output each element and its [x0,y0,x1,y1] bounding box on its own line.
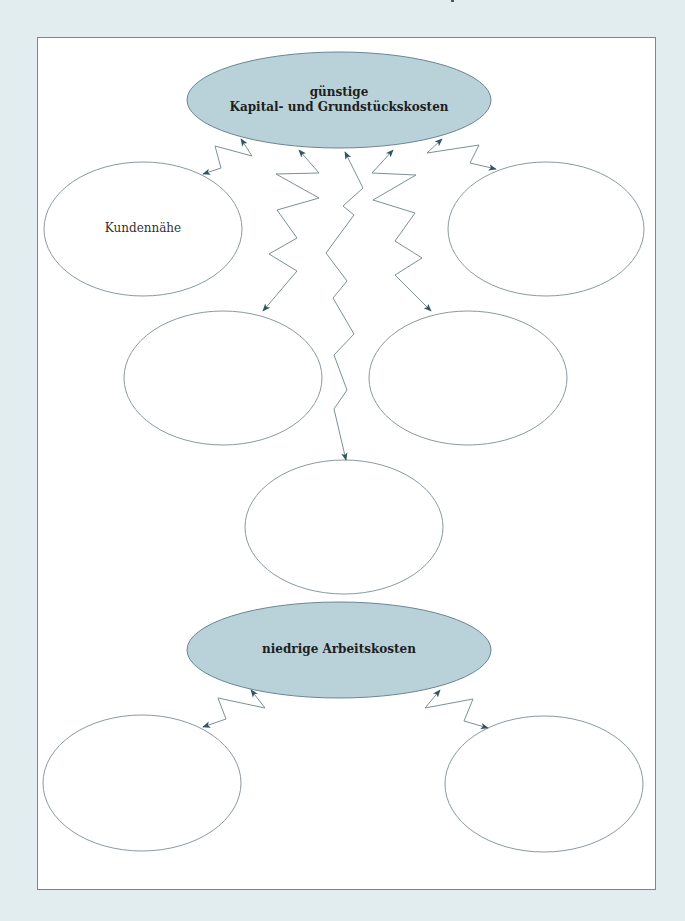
node-bottom-right-empty [445,716,643,852]
zigzag-arrow-to-customer-proximity [203,139,252,174]
mind-map-diagram [0,0,685,921]
node-customer-proximity-label: Kundennähe [44,221,242,236]
zigzag-arrow-to-top-right [427,139,496,169]
label-line-favorable: günstige [187,85,491,100]
primary-node-labor-costs-label: niedrige Arbeitskosten [187,642,491,657]
zigzag-arrow-to-middle-left [263,150,319,311]
node-bottom-left-empty [43,715,241,851]
node-middle-right-empty [369,311,567,445]
node-top-right-empty [448,162,644,296]
label-line-capital-land-costs: Kapital- und Grundstückskosten [187,100,491,115]
zigzag-arrow-to-center-bottom [326,152,363,460]
zigzag-arrow-to-bottom-left [203,690,265,727]
zigzag-arrow-to-bottom-right [425,690,488,728]
primary-node-capital-land-costs-label: günstige Kapital- und Grundstückskosten [187,85,491,115]
node-middle-left-empty [124,311,322,445]
node-center-bottom-empty [245,460,443,594]
zigzag-arrow-to-middle-right [372,150,431,311]
